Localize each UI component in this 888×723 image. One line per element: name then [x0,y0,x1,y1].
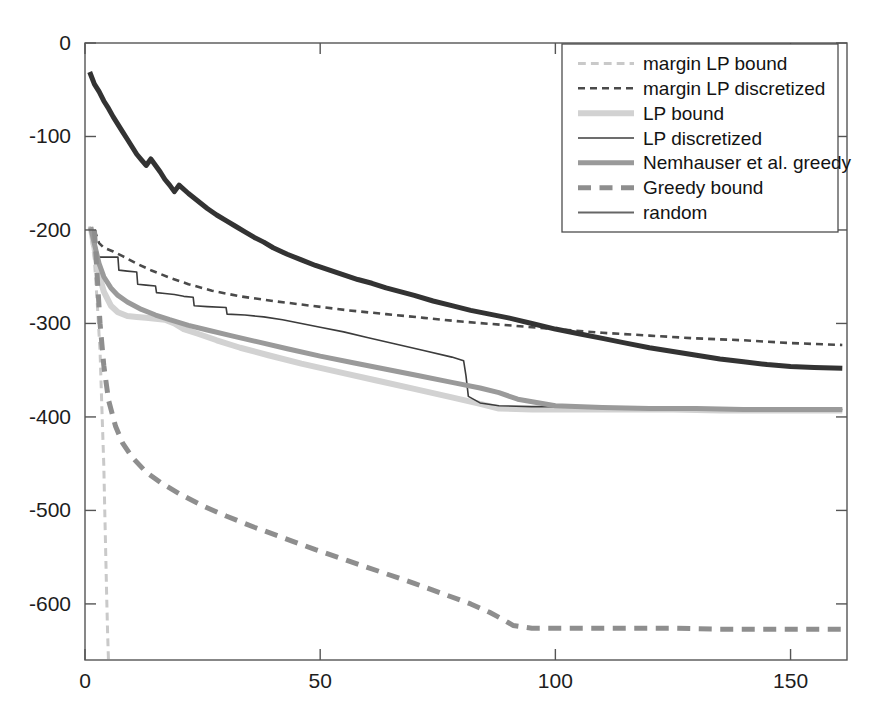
y-axis-tick-label: -600 [29,592,71,615]
y-axis-tick-label: -300 [29,311,71,334]
legend-label: Greedy bound [643,177,763,198]
x-axis-tick-label: 100 [538,669,573,692]
y-axis-tick-label: -500 [29,498,71,521]
x-axis-tick-label: 0 [79,669,91,692]
y-axis-tick-label: -100 [29,124,71,147]
legend-label: Nemhauser et al. greedy [643,152,852,173]
y-axis-tick-label: -400 [29,405,71,428]
line-chart-plot: 0-100-200-300-400-500-600050100150 margi… [0,0,888,723]
legend-label: margin LP bound [643,53,787,74]
legend-label: LP discretized [643,128,762,149]
legend-label: margin LP discretized [643,78,825,99]
x-axis-tick-label: 150 [773,669,808,692]
legend-box: margin LP boundmargin LP discretizedLP b… [562,44,852,232]
y-axis-tick-label: -200 [29,218,71,241]
chart-figure: 0-100-200-300-400-500-600050100150 margi… [0,0,888,723]
x-axis-tick-label: 50 [309,669,332,692]
legend-label: LP bound [643,103,724,124]
y-axis-tick-label: 0 [59,31,71,54]
legend-label: random [643,202,707,223]
